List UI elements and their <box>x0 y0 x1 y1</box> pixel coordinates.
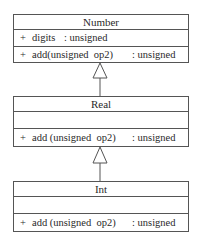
attributes-compartment <box>14 112 188 129</box>
class-name: Int <box>14 182 188 196</box>
generalization-real-to-number <box>93 63 107 96</box>
class-int[interactable]: Int + add (unsigned op2) : unsigned <box>13 181 189 232</box>
operation-return-type: : unsigned <box>132 217 175 229</box>
class-real[interactable]: Real + add (unsigned op2) : unsigned <box>13 96 189 147</box>
operation-signature: add (unsigned op2) <box>32 132 116 144</box>
generalization-int-to-real <box>93 147 107 181</box>
hollow-triangle-arrow-icon <box>93 147 107 163</box>
attributes-compartment <box>14 197 188 214</box>
attributes-compartment: + digits : unsigned <box>14 30 188 47</box>
class-name-compartment: Number <box>14 15 188 30</box>
operations-compartment: + add(unsigned op2) : unsigned <box>14 47 188 64</box>
operation-return-type: : unsigned <box>132 132 175 144</box>
class-name-compartment: Real <box>14 97 188 112</box>
visibility-marker: + <box>20 32 26 44</box>
attribute-type: : unsigned <box>64 32 107 44</box>
class-name: Number <box>14 15 188 29</box>
class-name: Real <box>14 97 188 111</box>
operation-return-type: : unsigned <box>132 49 175 61</box>
class-number[interactable]: Number + digits : unsigned + add(unsigne… <box>13 14 189 63</box>
operation-signature: add(unsigned op2) <box>32 49 113 61</box>
operation-signature: add (unsigned op2) <box>32 217 116 229</box>
visibility-marker: + <box>20 217 26 229</box>
hollow-triangle-arrow-icon <box>93 63 107 78</box>
operations-compartment: + add (unsigned op2) : unsigned <box>14 214 188 232</box>
operations-compartment: + add (unsigned op2) : unsigned <box>14 129 188 147</box>
class-name-compartment: Int <box>14 182 188 197</box>
visibility-marker: + <box>20 49 26 61</box>
visibility-marker: + <box>20 132 26 144</box>
attribute-name: digits <box>32 32 55 44</box>
